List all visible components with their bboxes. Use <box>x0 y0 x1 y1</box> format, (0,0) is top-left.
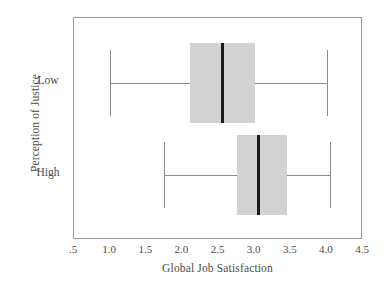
whisker-cap-low-left <box>110 50 111 116</box>
x-tick-label: 2.5 <box>201 243 235 255</box>
whisker-cap-low-right <box>327 50 328 116</box>
whisker-cap-high-left <box>164 142 165 208</box>
plot-area <box>73 17 362 239</box>
x-tick-label: 1.5 <box>128 243 162 255</box>
x-tick-label: 1.0 <box>92 243 126 255</box>
median-low <box>221 43 224 123</box>
whisker-cap-high-right <box>330 142 331 208</box>
median-high <box>257 135 260 215</box>
y-category-label-high: High <box>26 166 70 178</box>
x-tick-label: 3.5 <box>273 243 307 255</box>
box-plot-figure: Perception of Justice Low High .51.01.52… <box>0 0 386 293</box>
x-axis-title: Global Job Satisfaction <box>73 262 362 274</box>
y-category-label-low: Low <box>26 74 70 86</box>
y-axis-title: Perception of Justice <box>29 28 41 218</box>
x-tick-label: 4.5 <box>345 243 379 255</box>
box-high <box>237 135 288 215</box>
x-tick-label: 3.0 <box>237 243 271 255</box>
x-tick-label: .5 <box>56 243 90 255</box>
x-tick-label: 4.0 <box>309 243 343 255</box>
x-tick-label: 2.0 <box>164 243 198 255</box>
